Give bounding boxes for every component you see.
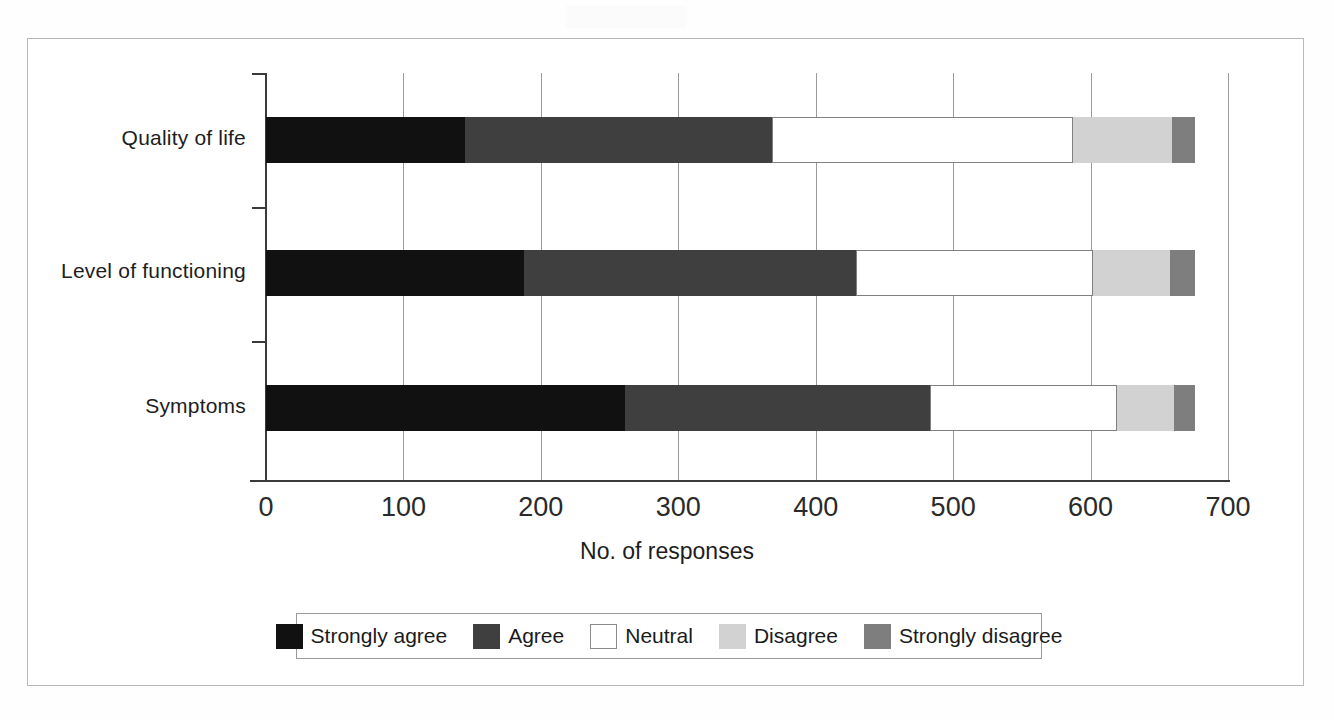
bar-segment-neutral <box>930 385 1117 431</box>
legend-item: Strongly agree <box>276 624 448 649</box>
legend-item: Disagree <box>719 624 838 649</box>
bar-segment-agree <box>625 385 930 431</box>
y-axis-label: Symptoms <box>145 394 246 418</box>
y-axis-label: Level of functioning <box>61 259 246 283</box>
legend-swatch-strongly-agree <box>276 624 303 649</box>
legend-swatch-neutral <box>590 624 617 649</box>
gridline <box>1228 73 1229 480</box>
bar-segment-neutral <box>856 250 1094 296</box>
scan-artifact <box>566 6 686 28</box>
y-axis-tick <box>252 480 267 482</box>
x-axis-tick-label: 500 <box>913 492 993 523</box>
bar-row <box>266 250 1195 296</box>
legend-item: Agree <box>473 624 564 649</box>
bar-segment-strongly-agree <box>266 385 625 431</box>
bar-segment-strongly-disagree <box>1174 385 1195 431</box>
bar-segment-disagree <box>1117 385 1175 431</box>
x-axis-tick-label: 200 <box>501 492 581 523</box>
bar-row <box>266 385 1195 431</box>
bar-segment-strongly-disagree <box>1170 250 1195 296</box>
legend-label: Strongly disagree <box>899 624 1062 648</box>
x-axis-tick-label: 700 <box>1188 492 1268 523</box>
legend-item: Neutral <box>590 624 693 649</box>
legend-label: Strongly agree <box>311 624 448 648</box>
legend-swatch-strongly-disagree <box>864 624 891 649</box>
y-axis-tick <box>252 341 267 343</box>
bar-segment-strongly-agree <box>266 250 524 296</box>
y-axis-tick <box>252 73 267 75</box>
chart-figure: Quality of lifeLevel of functioningSympt… <box>0 0 1334 720</box>
y-axis-label: Quality of life <box>122 126 246 150</box>
x-axis-title: No. of responses <box>0 538 1334 565</box>
x-axis-line <box>250 480 1230 482</box>
x-axis-tick-label: 0 <box>226 492 306 523</box>
x-axis-tick-label: 600 <box>1051 492 1131 523</box>
legend-label: Neutral <box>625 624 693 648</box>
bar-segment-neutral <box>772 117 1073 163</box>
legend-swatch-agree <box>473 624 500 649</box>
bar-segment-disagree <box>1073 117 1172 163</box>
legend-label: Agree <box>508 624 564 648</box>
bar-segment-strongly-disagree <box>1172 117 1195 163</box>
legend-label: Disagree <box>754 624 838 648</box>
legend-swatch-disagree <box>719 624 746 649</box>
bar-segment-strongly-agree <box>266 117 465 163</box>
y-axis-tick <box>252 207 267 209</box>
bar-segment-agree <box>465 117 771 163</box>
x-axis-tick-label: 300 <box>638 492 718 523</box>
chart-legend: Strongly agreeAgreeNeutralDisagreeStrong… <box>296 613 1042 659</box>
legend-item: Strongly disagree <box>864 624 1062 649</box>
x-axis-tick-label: 100 <box>363 492 443 523</box>
bar-segment-disagree <box>1093 250 1170 296</box>
x-axis-tick-label: 400 <box>776 492 856 523</box>
bar-segment-agree <box>524 250 855 296</box>
bar-row <box>266 117 1195 163</box>
